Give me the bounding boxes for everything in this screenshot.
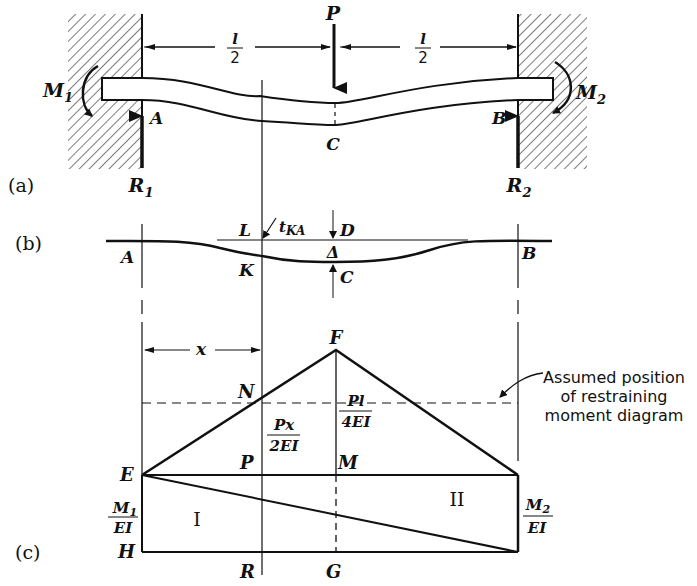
- reaction-label-r2: R2: [506, 174, 532, 200]
- point-label-n: N: [237, 381, 256, 402]
- part-a-beam-elevation: l 2 l 2 P M1 M2 R1 R2 A B C (a): [8, 2, 606, 200]
- half-span-left-num: l: [232, 30, 238, 48]
- point-label-a: A: [119, 247, 134, 267]
- annotation-line-3: moment diagram: [545, 406, 684, 425]
- point-label-k: K: [238, 260, 255, 280]
- right-ordinate-den: EI: [527, 519, 547, 537]
- point-label-b: B: [521, 243, 536, 263]
- load-label-p: P: [325, 2, 341, 24]
- point-label-d: D: [339, 220, 355, 240]
- point-label-g: G: [326, 561, 341, 582]
- ordinate-px-num: Px: [273, 416, 295, 434]
- area-label-2: II: [449, 488, 464, 510]
- ordinate-pl-den: 4EI: [342, 413, 372, 431]
- dimension-x-label: x: [195, 339, 207, 359]
- point-label-c: C: [340, 267, 354, 287]
- midpoint-label-c: C: [326, 134, 340, 154]
- area-label-1: I: [193, 508, 201, 530]
- point-label-p: P: [239, 452, 254, 473]
- point-label-e: E: [119, 464, 134, 485]
- fixed-beam-diagram: l 2 l 2 P M1 M2 R1 R2 A B C (a) (b): [0, 0, 697, 586]
- deflected-beam: [102, 78, 553, 125]
- annotation-leader-arrow: [500, 373, 543, 397]
- simple-moment-triangle: [142, 350, 518, 475]
- tangent-deviation-label: tKA: [279, 218, 305, 238]
- point-label-h: H: [117, 541, 136, 562]
- deflection-delta: Δ: [326, 243, 339, 262]
- support-label-b: B: [491, 108, 506, 128]
- part-c-moment-diagram: (c) x F N E P M H R G Px: [15, 300, 685, 582]
- half-span-right-den: 2: [418, 49, 428, 67]
- point-label-r: R: [239, 561, 255, 582]
- left-ordinate-num: M1: [112, 499, 137, 519]
- half-span-left-den: 2: [230, 49, 240, 67]
- annotation-line-1: Assumed position: [543, 368, 685, 387]
- part-label-a: (a): [8, 174, 34, 196]
- ordinate-pl-num: Pl: [347, 392, 365, 410]
- part-label-b: (b): [15, 232, 42, 254]
- annotation-line-2: of restraining: [561, 387, 668, 406]
- reaction-label-r1: R1: [128, 174, 154, 200]
- part-b-elastic-curve: (b) A B L K D C Δ tKA: [15, 200, 552, 575]
- part-label-c: (c): [15, 541, 40, 563]
- support-label-a: A: [148, 108, 163, 128]
- point-label-l: L: [238, 220, 251, 240]
- point-label-f: F: [329, 327, 344, 348]
- half-span-right-num: l: [420, 30, 426, 48]
- right-ordinate-num: M2: [525, 496, 551, 516]
- ordinate-px-den: 2EI: [269, 437, 300, 455]
- point-label-m: M: [337, 452, 359, 473]
- left-ordinate-den: EI: [113, 519, 133, 537]
